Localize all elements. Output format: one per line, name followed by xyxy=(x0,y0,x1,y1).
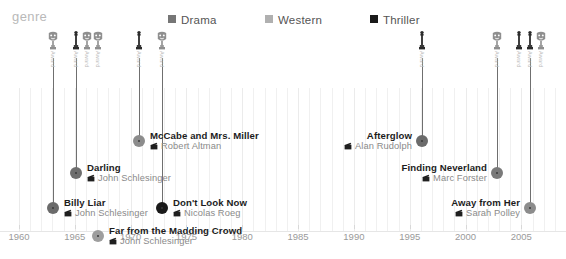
award-label: Award xyxy=(159,51,165,68)
axis-tick-mark xyxy=(186,225,187,229)
film-director-row: Marc Forster xyxy=(0,173,487,184)
award-label: Award xyxy=(84,51,90,68)
film-title: Away from Her xyxy=(0,197,520,208)
x-axis: 1960196519701975198019851990199520002005 xyxy=(0,231,566,251)
stem-line xyxy=(76,58,77,173)
legend-item-label: Western xyxy=(278,14,322,26)
film-annotation[interactable]: Away from HerSarah Polley xyxy=(0,197,520,219)
axis-tick-mark xyxy=(410,225,411,229)
legend-swatch-icon xyxy=(168,15,176,23)
film-annotation[interactable]: AfterglowAlan Rudolph xyxy=(0,130,412,152)
axis-tick-label: 1990 xyxy=(343,231,364,242)
stem-line xyxy=(497,58,498,173)
gridline xyxy=(555,88,556,231)
data-point[interactable] xyxy=(416,135,428,147)
axis-tick-mark xyxy=(242,225,243,229)
legend-item-label: Thriller xyxy=(383,14,420,26)
award-label: Award xyxy=(538,51,544,68)
award-label: Award xyxy=(73,51,79,68)
data-point-core xyxy=(421,140,423,142)
award-label: Award xyxy=(419,51,425,68)
bafta-mask-icon xyxy=(92,30,104,50)
axis-tick-label: 1960 xyxy=(8,231,29,242)
clapperboard-icon xyxy=(455,209,463,217)
axis-tick-label: 1965 xyxy=(64,231,85,242)
award-label: Award xyxy=(50,51,56,68)
legend-swatch-icon xyxy=(265,15,273,23)
award-label: Award xyxy=(516,51,522,68)
data-point-core xyxy=(529,207,531,209)
axis-tick-label: 1995 xyxy=(399,231,420,242)
axis-tick-label: 1975 xyxy=(176,231,197,242)
axis-tick-label: 2000 xyxy=(455,231,476,242)
axis-tick-mark xyxy=(75,225,76,229)
film-title: Finding Neverland xyxy=(0,162,487,173)
axis-tick-mark xyxy=(521,225,522,229)
clapperboard-icon xyxy=(344,142,352,150)
award-label: Award xyxy=(136,51,142,68)
film-annotation[interactable]: Finding NeverlandMarc Forster xyxy=(0,162,487,184)
axis-tick-mark xyxy=(466,225,467,229)
bafta-mask-icon xyxy=(535,30,547,50)
film-director-row: Sarah Polley xyxy=(0,208,520,219)
award-label: Award xyxy=(527,51,533,68)
legend-item-label: Drama xyxy=(181,14,217,26)
oscar-statue-icon xyxy=(416,30,428,50)
bafta-mask-icon xyxy=(47,30,59,50)
axis-tick-mark xyxy=(19,225,20,229)
data-point[interactable] xyxy=(491,167,503,179)
bafta-mask-icon xyxy=(491,30,503,50)
axis-tick-label: 1985 xyxy=(288,231,309,242)
legend-item-western[interactable]: Western xyxy=(265,10,322,24)
award-label: Award xyxy=(95,51,101,68)
legend: genre DramaWesternThriller xyxy=(0,8,566,28)
stem-line xyxy=(139,58,140,141)
axis-tick-label: 1970 xyxy=(120,231,141,242)
stem-line xyxy=(530,58,531,208)
award-label: Award xyxy=(494,51,500,68)
axis-tick-mark xyxy=(298,225,299,229)
film-title: Afterglow xyxy=(0,130,412,141)
bafta-mask-icon xyxy=(156,30,168,50)
gridline xyxy=(521,88,522,231)
axis-tick-mark xyxy=(354,225,355,229)
legend-item-drama[interactable]: Drama xyxy=(168,10,217,24)
legend-title: genre xyxy=(12,9,47,24)
timeline-chart: genre DramaWesternThriller AwardAwardAwa… xyxy=(0,0,566,259)
oscar-statue-icon xyxy=(133,30,145,50)
data-point-core xyxy=(496,172,498,174)
legend-item-thriller[interactable]: Thriller xyxy=(370,10,420,24)
axis-tick-label: 2005 xyxy=(511,231,532,242)
stem-line xyxy=(422,58,423,141)
film-director-row: Alan Rudolph xyxy=(0,141,412,152)
plot-area: AwardAwardAwardAwardAwardAwardAwardAward… xyxy=(0,28,566,231)
axis-tick-mark xyxy=(131,225,132,229)
film-director: Alan Rudolph xyxy=(355,141,412,151)
film-director: Sarah Polley xyxy=(466,208,520,218)
data-point[interactable] xyxy=(524,202,536,214)
clapperboard-icon xyxy=(422,174,430,182)
legend-swatch-icon xyxy=(370,15,378,23)
film-director: Marc Forster xyxy=(433,173,487,183)
gridline xyxy=(544,88,545,231)
axis-tick-label: 1980 xyxy=(232,231,253,242)
